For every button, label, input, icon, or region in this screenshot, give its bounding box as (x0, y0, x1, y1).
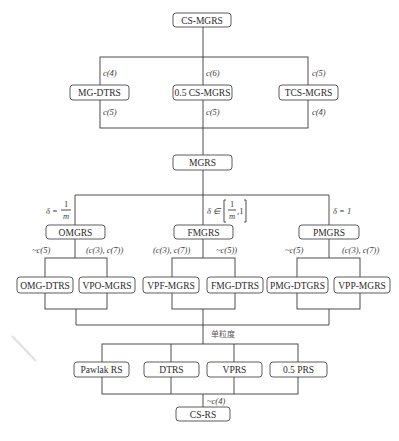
bracket-left (224, 200, 226, 222)
annotation-mg-dtrs-lower: c(5) (103, 107, 117, 117)
annotation-0-5-cs-mgrs-upper: c(6) (206, 68, 220, 78)
condition-numerator: 1 (64, 199, 68, 209)
node-label: PMG-DTGRS (270, 281, 325, 291)
node-tcs-mgrs: TCS-MGRS (279, 85, 338, 100)
concept-hierarchy-diagram: CS-MGRS MG-DTRS 0.5 CS-MGRS TCS-MGRS c(4… (0, 0, 399, 441)
node-vpf-mgrs: VPF-MGRS (143, 277, 199, 293)
condition-pmgrs: δ = 1 (333, 206, 351, 216)
node-label: FMG-DTRS (211, 281, 259, 291)
node-vprs: VPRS (207, 362, 262, 377)
node-0-5-prs: 0.5 PRS (270, 362, 327, 377)
node-cs-rs: CS-RS (176, 407, 230, 421)
node-label: PMGRS (313, 228, 345, 238)
node-label: VPRS (223, 365, 247, 375)
node-label: FMGRS (187, 228, 219, 238)
annotation-mg-dtrs-upper: c(4) (103, 68, 117, 78)
condition-numerator: 1 (230, 199, 234, 209)
node-0-5-cs-mgrs: 0.5 CS-MGRS (173, 85, 232, 100)
condition-omgrs: δ = 1 m (46, 199, 71, 221)
node-label: CS-RS (190, 410, 216, 420)
node-label: CS-MGRS (181, 16, 223, 26)
node-label: OMGRS (59, 228, 93, 238)
annotation-pmgrs-right: (c(3), c(7)) (342, 245, 379, 255)
node-vpo-mgrs: VPO-MGRS (79, 277, 135, 293)
annotation-fmgrs-right: ~c(5)) (216, 245, 237, 255)
node-label: OMG-DTRS (20, 281, 70, 291)
node-label: VPF-MGRS (147, 281, 195, 291)
node-label: MGRS (189, 158, 216, 168)
annotation-omgrs-left: ~c(5) (32, 245, 50, 255)
bracket-right (244, 200, 246, 222)
node-label: MG-DTRS (78, 88, 121, 98)
node-label: VPO-MGRS (82, 281, 131, 291)
node-label: Pawlak RS (81, 365, 123, 375)
condition-fmgrs: δ ∈ 1 m ,1 (207, 199, 246, 222)
node-label: 0.5 CS-MGRS (175, 88, 231, 98)
node-dtrs: DTRS (144, 362, 199, 377)
annotation-cs-rs: ~c(4) (207, 396, 225, 406)
annotation-tcs-mgrs-upper: c(5) (312, 68, 326, 78)
node-cs-mgrs: CS-MGRS (173, 13, 231, 27)
node-omg-dtrs: OMG-DTRS (17, 277, 73, 293)
connectors (45, 27, 360, 407)
node-label: VPP-MGRS (338, 281, 386, 291)
condition-denominator: m (229, 211, 235, 221)
node-fmg-dtrs: FMG-DTRS (207, 277, 263, 293)
condition-denominator: m (63, 211, 69, 221)
single-granularity-label: 单粒度 (211, 329, 235, 339)
node-label: 0.5 PRS (283, 365, 314, 375)
scan-artifact (12, 336, 36, 361)
condition-lhs: δ ∈ (207, 206, 222, 216)
node-mgrs: MGRS (173, 155, 232, 170)
node-vpp-mgrs: VPP-MGRS (334, 277, 390, 293)
node-pawlak-rs: Pawlak RS (74, 362, 129, 377)
node-pmgrs: PMGRS (299, 225, 359, 239)
node-omgrs: OMGRS (46, 225, 105, 239)
condition-tail: ,1 (237, 206, 243, 216)
condition-lhs: δ = (46, 206, 58, 216)
annotation-omgrs-right: (c(3), c(7)) (86, 245, 123, 255)
annotation-pmgrs-left: ~c(5) (285, 245, 303, 255)
node-fmgrs: FMGRS (174, 225, 233, 239)
node-pmg-dtgrs: PMG-DTGRS (267, 277, 328, 293)
node-label: TCS-MGRS (285, 88, 333, 98)
node-label: DTRS (159, 365, 183, 375)
annotation-fmgrs-left: (c(3), c(7)) (153, 245, 190, 255)
level4-frame (102, 344, 298, 394)
annotation-tcs-mgrs-lower: c(4) (312, 107, 326, 117)
annotation-0-5-cs-mgrs-lower: c(5) (206, 107, 220, 117)
node-mg-dtrs: MG-DTRS (70, 85, 129, 100)
